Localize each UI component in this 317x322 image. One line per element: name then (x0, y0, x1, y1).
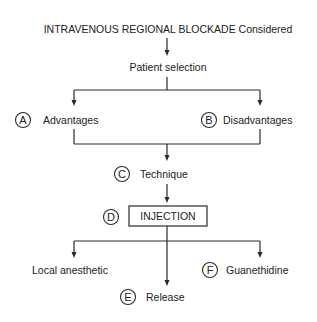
guanethidine-node: F Guanethidine (203, 263, 289, 278)
title-node: INTRAVENOUS REGIONAL BLOCKADE Considered (44, 23, 293, 35)
advantages-node: A Advantages (16, 113, 99, 128)
release-node: E Release (121, 290, 185, 305)
connector-merge-to-technique (74, 129, 260, 161)
injection-label: INJECTION (140, 210, 195, 222)
letter-d: D (107, 211, 115, 223)
arrow-title-to-selection (165, 38, 170, 56)
letter-b: B (205, 114, 212, 126)
guanethidine-label: Guanethidine (226, 264, 289, 276)
connector-selection-split (72, 77, 263, 106)
technique-label: Technique (140, 168, 188, 180)
injection-node: D INJECTION (104, 206, 208, 226)
arrow-technique-to-injection (165, 184, 170, 203)
flowchart-diagram: INTRAVENOUS REGIONAL BLOCKADE Considered… (0, 0, 317, 322)
disadvantages-node: B Disadvantages (202, 113, 293, 128)
patient-selection-node: Patient selection (129, 61, 206, 73)
letter-a: A (19, 114, 27, 126)
letter-f: F (207, 264, 214, 276)
letter-c: C (118, 168, 126, 180)
disadvantages-label: Disadvantages (223, 114, 292, 126)
connector-injection-split (72, 226, 263, 286)
local-anesthetic-node: Local anesthetic (32, 264, 108, 276)
technique-node: C Technique (115, 167, 189, 182)
advantages-label: Advantages (43, 114, 98, 126)
release-label: Release (146, 291, 185, 303)
letter-e: E (124, 291, 131, 303)
